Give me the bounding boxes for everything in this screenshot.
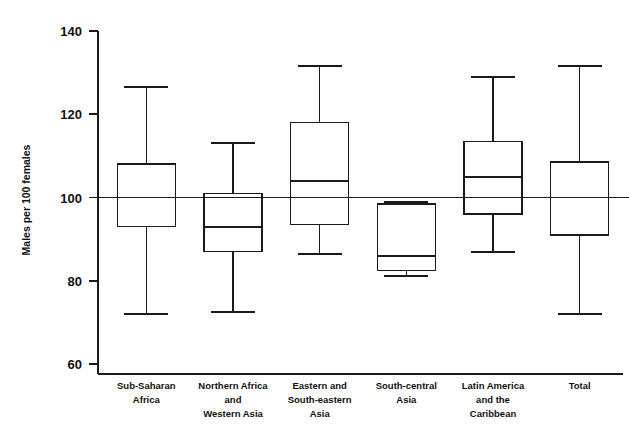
x-tick-label-6-line-1: Total [569, 380, 591, 391]
iqr-box [117, 164, 175, 226]
y-tick-label-120: 120 [60, 107, 82, 122]
x-tick-label-group-3: Eastern andSouth-easternAsia [288, 380, 352, 419]
x-tick-label-4-line-1: South-central [376, 380, 437, 391]
x-tick-label-group-4: South-centralAsia [376, 380, 437, 405]
y-tick-label-140: 140 [60, 24, 82, 39]
x-tick-label-1-line-2: Africa [133, 394, 161, 405]
iqr-box [204, 193, 262, 251]
iqr-box [551, 162, 609, 235]
box-plot-5 [464, 77, 522, 252]
x-tick-label-5-line-2: and the [476, 394, 510, 405]
box-plot-4 [377, 202, 435, 276]
x-tick-label-group-2: Northern AfricaandWestern Asia [198, 380, 268, 419]
x-tick-label-group-1: Sub-SaharanAfrica [117, 380, 176, 405]
x-tick-label-group-5: Latin Americaand theCaribbean [462, 380, 525, 419]
iqr-box [291, 123, 349, 225]
y-axis-label: Males per 100 females [20, 144, 32, 255]
y-tick-label-60: 60 [68, 357, 82, 372]
box-plot-2 [204, 143, 262, 312]
y-tick-label-100: 100 [60, 191, 82, 206]
x-tick-label-4-line-2: Asia [396, 394, 417, 405]
x-tick-label-1-line-1: Sub-Saharan [117, 380, 176, 391]
iqr-box [464, 141, 522, 214]
x-tick-label-2-line-1: Northern Africa [198, 380, 268, 391]
y-axis-title: Males per 100 females [20, 144, 32, 255]
x-tick-label-3-line-3: Asia [310, 408, 331, 419]
x-tick-label-2-line-2: and [225, 394, 242, 405]
x-tick-label-5-line-1: Latin America [462, 380, 525, 391]
box-plot-chart: 6080100120140 Males per 100 females Sub-… [0, 0, 629, 442]
x-tick-label-group-6: Total [569, 380, 591, 391]
box-plot-6 [551, 66, 609, 314]
x-axis-tick-labels: Sub-SaharanAfricaNorthern AfricaandWeste… [117, 380, 591, 419]
y-axis: 6080100120140 [60, 24, 98, 374]
x-tick-label-5-line-3: Caribbean [470, 408, 517, 419]
x-tick-label-2-line-3: Western Asia [203, 408, 263, 419]
y-tick-label-80: 80 [68, 274, 82, 289]
box-series [117, 66, 608, 314]
x-tick-label-3-line-2: South-eastern [288, 394, 352, 405]
chart-canvas: 6080100120140 Males per 100 females Sub-… [0, 0, 629, 442]
box-plot-3 [291, 66, 349, 253]
box-plot-1 [117, 87, 175, 314]
x-tick-label-3-line-1: Eastern and [292, 380, 347, 391]
iqr-box [377, 204, 435, 271]
